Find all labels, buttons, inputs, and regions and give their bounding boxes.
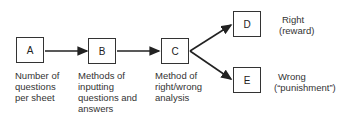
caption-line: Number of bbox=[15, 70, 59, 81]
node-c: C bbox=[161, 38, 189, 64]
node-b: B bbox=[88, 38, 116, 64]
node-d: D bbox=[233, 11, 261, 37]
caption-line: questions bbox=[15, 81, 59, 92]
caption-line: (“punishment”) bbox=[274, 82, 336, 93]
arrow-c-to-d bbox=[190, 25, 231, 51]
caption-e: Wrong (“punishment”) bbox=[274, 71, 336, 93]
caption-line: Method of bbox=[155, 70, 202, 81]
node-e: E bbox=[233, 67, 261, 93]
caption-a: Number of questions per sheet bbox=[15, 70, 59, 103]
caption-b: Methods of inputting questions and answe… bbox=[78, 70, 137, 114]
caption-line: per sheet bbox=[15, 92, 59, 103]
caption-line: questions and bbox=[78, 92, 137, 103]
caption-line: Methods of bbox=[78, 70, 137, 81]
caption-line: Wrong bbox=[274, 71, 336, 82]
caption-c: Method of right/wrong analysis bbox=[155, 70, 202, 103]
node-a: A bbox=[16, 37, 44, 63]
caption-line: right/wrong bbox=[155, 81, 202, 92]
caption-line: inputting bbox=[78, 81, 137, 92]
caption-d: Right (reward) bbox=[279, 14, 314, 36]
caption-line: Right bbox=[279, 14, 314, 25]
caption-line: (reward) bbox=[279, 25, 314, 36]
caption-line: answers bbox=[78, 103, 137, 114]
caption-line: analysis bbox=[155, 92, 202, 103]
